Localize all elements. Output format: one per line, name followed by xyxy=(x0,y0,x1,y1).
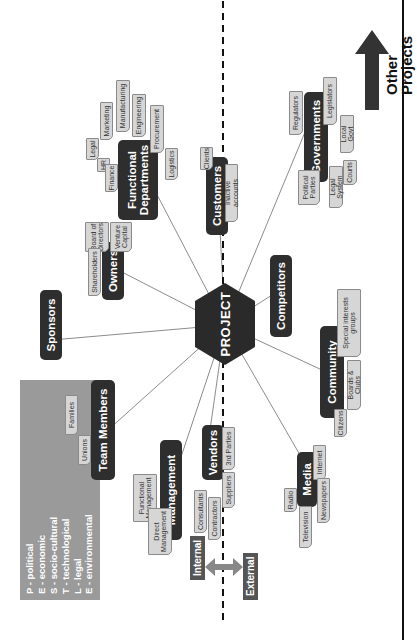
pestle-legend: P - political E - economic S - socio-cul… xyxy=(20,380,100,600)
project-hexagon[interactable]: PROJECT xyxy=(195,283,255,365)
leaf-newspapers: Newspapers xyxy=(317,478,330,523)
node-label: Media xyxy=(301,463,313,496)
leaf-shareholders: Shareholders xyxy=(88,248,101,296)
leaf-local-govt: Local Govt xyxy=(340,115,354,153)
leaf-venture-capital: Venture Capital xyxy=(110,222,132,252)
leaf-legal-system: Legal System xyxy=(329,166,343,208)
leaf-citizens: Citizens xyxy=(334,409,347,437)
leaf-legislators: Legislators xyxy=(323,77,337,125)
node-competitors[interactable]: Competitors xyxy=(270,255,292,337)
leaf-legal: Legal xyxy=(86,138,99,160)
other-projects-label: OtherProjects xyxy=(384,36,414,95)
node-vendors[interactable]: Vendors xyxy=(202,425,224,480)
leaf-courts: Courts xyxy=(343,160,357,185)
leaf-inactive-accounts: Inactive accounts xyxy=(225,164,238,222)
leaf-consultants: Consultants xyxy=(194,490,207,533)
leaf-direct-management: Direct Management xyxy=(148,508,172,555)
project-label: PROJECT xyxy=(218,292,233,357)
leaf-clients: Clients xyxy=(200,147,213,170)
node-team-members[interactable]: Team Members xyxy=(91,380,115,480)
leaf-procurement: Procurement xyxy=(150,105,164,153)
node-label: Owners xyxy=(107,250,119,292)
internal-label: Internal xyxy=(190,536,205,580)
leaf-internet: Internet xyxy=(313,445,326,480)
leaf-special-interests-groups: Special interests groups xyxy=(337,289,361,357)
leaf-logistics: Logistics xyxy=(165,148,178,180)
leaf-radio: Radio xyxy=(284,488,297,512)
node-label: Governments xyxy=(310,100,322,174)
leaf-families: Families xyxy=(65,395,78,435)
leaf-suppliers: Suppliers xyxy=(222,472,235,508)
pestle-item: E - economic xyxy=(36,386,48,594)
pestle-item: S - socio-cultural xyxy=(48,386,60,594)
leaf-finance: Finance xyxy=(105,164,118,192)
node-label: Vendors xyxy=(207,430,219,475)
node-label: Team Members xyxy=(97,389,109,472)
node-label: Competitors xyxy=(275,262,287,330)
leaf-marketing: Marketing xyxy=(100,102,113,140)
pestle-item: P - political xyxy=(24,386,36,594)
node-label: Customers xyxy=(211,166,223,226)
node-label: Sponsors xyxy=(45,298,57,351)
leaf-engineering: Engineering xyxy=(132,94,146,137)
stakeholder-diagram: P - political E - economic S - socio-cul… xyxy=(0,0,417,640)
node-label: Functional Departments xyxy=(126,140,150,220)
leaf-boards-clubs: Boards & Clubs xyxy=(347,360,361,410)
leaf-television: Television xyxy=(299,506,312,548)
leaf-political-parties: Political Parties xyxy=(298,170,320,205)
leaf-unions: Unions xyxy=(78,435,91,465)
leaf-regulators: Regulators xyxy=(289,91,303,135)
internal-external-arrow-icon xyxy=(205,552,243,582)
node-sponsors[interactable]: Sponsors xyxy=(40,290,62,360)
leaf-3rd-parties: 3rd Parties xyxy=(222,427,235,470)
leaf-contractors: Contractors xyxy=(208,497,221,540)
leaf-manufacturing: Manufacturing xyxy=(116,80,130,132)
external-label: External xyxy=(243,553,258,600)
